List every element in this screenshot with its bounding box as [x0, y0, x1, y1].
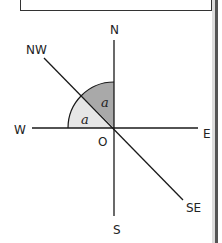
label-northwest: NW — [26, 43, 47, 57]
label-north: N — [110, 23, 119, 37]
angle-label-lower: a — [81, 112, 89, 127]
label-southeast: SE — [186, 201, 201, 215]
compass-diagram: N NW W E SE S O a a — [0, 0, 222, 243]
angle-label-upper: a — [101, 95, 109, 110]
label-east: E — [203, 127, 211, 141]
label-origin: O — [98, 135, 107, 149]
label-south: S — [113, 223, 121, 237]
label-west: W — [14, 123, 26, 137]
